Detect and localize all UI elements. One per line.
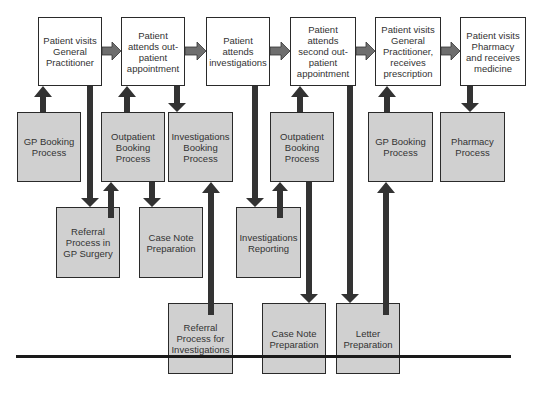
stage-label: Patient attends second out-patient appoi… [293,24,353,79]
arrow-down-icon [341,86,359,303]
stage-label: Patient visits Pharmacy and receives med… [463,30,523,74]
process-pharmacy: Pharmacy Process [440,112,505,182]
process-label: Outpatient Booking Process [104,131,162,164]
arrow-down-icon [300,182,318,303]
arrow-up-icon [202,182,220,315]
flow-arrow-icon [185,42,206,60]
stage-gp-visit: Patient visits General Practitioner [38,17,102,86]
stage-label: Patient attends investigations [209,35,267,68]
process-label: Case Note Preparation [142,232,200,254]
process-gp-booking-1: GP Booking Process [17,112,81,182]
stage-label: Patient visits General Practitioner [41,35,99,68]
stage-outpatient-1: Patient attends out-patient appointment [121,17,185,86]
arrow-up-icon [377,182,395,315]
process-outpatient-booking-1: Outpatient Booking Process [101,112,165,182]
arrow-down-icon [168,86,186,112]
arrow-down-icon [246,86,264,207]
stage-label: Patient attends out-patient appointment [124,30,182,74]
process-label: Investigations Booking Process [171,131,230,164]
process-referral-investigations: Referral Process for Investigations [168,303,233,374]
flow-arrow-icon [441,42,460,60]
stage-label: Patient visits General Practitioner, rec… [378,24,438,79]
process-investigations-reporting: Investigations Reporting [236,207,301,278]
process-label: Case Note Preparation [265,328,323,350]
flow-arrow-icon [102,42,121,60]
process-letter: Letter Preparation [336,303,400,374]
arrow-down-icon [461,86,479,112]
arrow-up-icon [34,86,52,112]
arrow-down-icon [143,182,161,207]
arrow-up-icon [118,86,136,112]
arrow-up-icon [291,86,309,112]
process-case-note-2: Case Note Preparation [262,303,326,374]
stage-gp-prescription: Patient visits General Practitioner, rec… [375,17,441,86]
stage-pharmacy: Patient visits Pharmacy and receives med… [460,17,526,86]
arrow-up-icon [378,86,396,112]
process-label: Letter Preparation [339,328,397,350]
process-label: Outpatient Booking Process [273,131,331,164]
process-referral-gp: Referral Process in GP Surgery [56,207,120,278]
process-case-note-1: Case Note Preparation [139,207,203,278]
process-label: GP Booking Process [371,136,430,158]
process-label: Investigations Reporting [239,232,298,254]
process-gp-booking-2: GP Booking Process [368,112,433,182]
process-outpatient-booking-2: Outpatient Booking Process [270,112,334,182]
bottom-rule [16,355,511,358]
process-investigations-booking: Investigations Booking Process [168,112,233,182]
process-label: Referral Process for Investigations [171,322,230,355]
flow-arrow-icon [356,42,375,60]
stage-outpatient-2: Patient attends second out-patient appoi… [290,17,356,86]
process-label: GP Booking Process [20,136,78,158]
flow-arrow-icon [270,42,290,60]
process-label: Pharmacy Process [443,136,502,158]
stage-investigations: Patient attends investigations [206,17,270,86]
arrow-down-icon [81,86,99,207]
process-label: Referral Process in GP Surgery [59,226,117,259]
